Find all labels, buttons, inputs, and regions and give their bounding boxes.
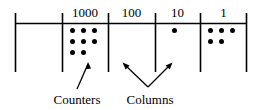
column-header-1: 1 xyxy=(200,6,247,19)
columns-annotation-label: Columns xyxy=(105,93,195,106)
counter-dot xyxy=(92,39,97,44)
counters-arrow xyxy=(77,62,91,89)
columns-arrow xyxy=(123,63,173,87)
counter-dot xyxy=(208,39,213,44)
counter-dot xyxy=(81,28,86,33)
counter-dot xyxy=(81,39,86,44)
counter-dot xyxy=(172,28,177,33)
column-header-100: 100 xyxy=(108,6,155,19)
counter-dot xyxy=(81,50,86,55)
counter-dot xyxy=(208,28,213,33)
counter-dot xyxy=(230,28,235,33)
counter-dot xyxy=(70,28,75,33)
column-header-10: 10 xyxy=(155,6,200,19)
counter-dot xyxy=(70,50,75,55)
counters-group-100 xyxy=(108,28,155,58)
counter-dot xyxy=(219,28,224,33)
counter-dot xyxy=(92,28,97,33)
counter-dot xyxy=(219,39,224,44)
counter-dot xyxy=(70,39,75,44)
column-header-1000: 1000 xyxy=(62,6,108,19)
place-value-counters-diagram: 1000 100 10 1 Counters Columns xyxy=(0,0,259,110)
